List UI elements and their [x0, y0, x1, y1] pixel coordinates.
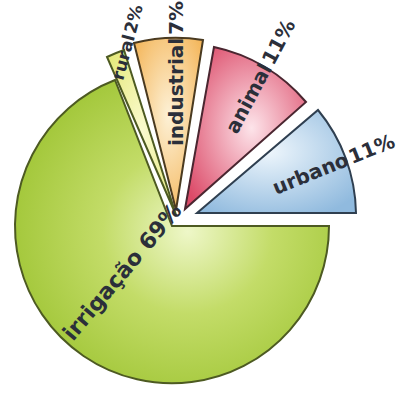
- pie-chart: irrigação 69% rural2% industrial7% anima…: [0, 0, 403, 401]
- label-industrial: industrial7%: [164, 1, 188, 146]
